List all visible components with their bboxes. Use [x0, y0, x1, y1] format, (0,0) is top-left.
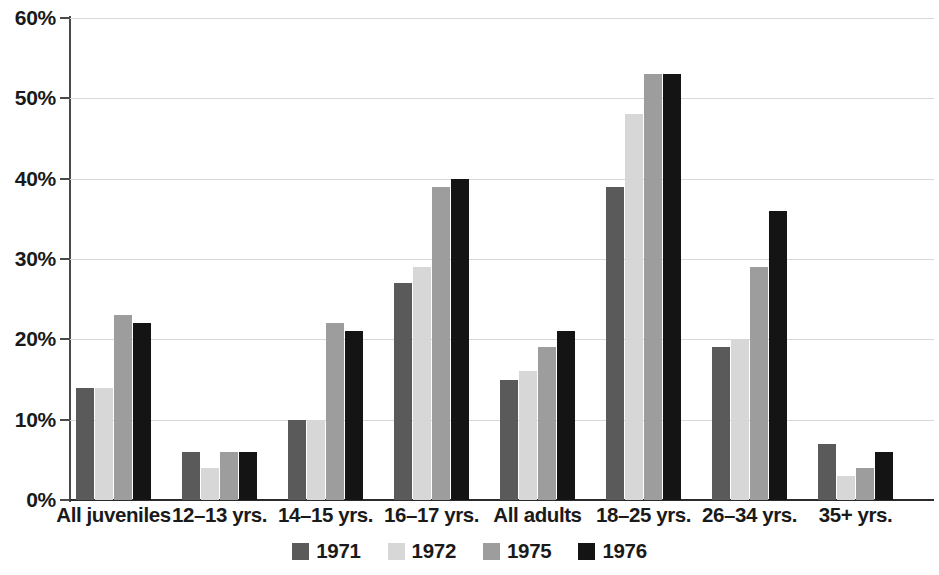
bar [326, 323, 344, 500]
x-axis-category-label: 35+ yrs. [766, 505, 939, 526]
legend-label: 1976 [602, 541, 646, 562]
bar [432, 187, 450, 500]
bar [538, 347, 556, 500]
gridline [70, 98, 934, 99]
legend-label: 1971 [316, 541, 360, 562]
bar [731, 339, 749, 500]
bar [557, 331, 575, 500]
legend-swatch-icon [388, 543, 405, 560]
bar [451, 179, 469, 500]
bar [288, 420, 306, 500]
bar [413, 267, 431, 500]
bar [307, 420, 325, 500]
y-axis-tick-label: 40% [0, 168, 56, 189]
bar [114, 315, 132, 500]
y-tick-mark [60, 499, 69, 501]
bar [837, 476, 855, 500]
bar [239, 452, 257, 500]
legend-swatch-icon [483, 543, 500, 560]
y-tick-mark [60, 258, 69, 260]
legend-item[interactable]: 1971 [292, 541, 360, 562]
legend-item[interactable]: 1976 [578, 541, 646, 562]
bar [345, 331, 363, 500]
y-axis-tick-label: 60% [0, 7, 56, 28]
y-tick-mark [60, 97, 69, 99]
bar [76, 388, 94, 500]
bar [500, 380, 518, 501]
legend-label: 1975 [507, 541, 551, 562]
legend-item[interactable]: 1972 [388, 541, 456, 562]
bar [712, 347, 730, 500]
gridline [70, 259, 934, 260]
bar [394, 283, 412, 500]
y-axis-tick-label: 50% [0, 87, 56, 108]
bar [644, 74, 662, 500]
bar [201, 468, 219, 500]
y-tick-mark [60, 419, 69, 421]
bar [182, 452, 200, 500]
bar [95, 388, 113, 500]
bar [220, 452, 238, 500]
plot-area [70, 18, 934, 500]
bar [875, 452, 893, 500]
bar [519, 371, 537, 500]
bar [769, 211, 787, 500]
gridline [70, 18, 934, 19]
bar [606, 187, 624, 500]
y-tick-mark [60, 17, 69, 19]
y-tick-mark [60, 178, 69, 180]
y-axis-tick-label: 10% [0, 409, 56, 430]
bar [663, 74, 681, 500]
legend-label: 1972 [412, 541, 456, 562]
y-tick-mark [60, 338, 69, 340]
chart-legend: 1971197219751976 [0, 541, 939, 562]
bar [133, 323, 151, 500]
bar [856, 468, 874, 500]
bar [625, 114, 643, 500]
bar-chart: 0%10%20%30%40%50%60% All juveniles12–13 … [0, 0, 939, 575]
bar [818, 444, 836, 500]
bar [750, 267, 768, 500]
gridline [70, 339, 934, 340]
gridline [70, 179, 934, 180]
y-axis-tick-label: 20% [0, 328, 56, 349]
y-axis-tick-label: 30% [0, 248, 56, 269]
legend-swatch-icon [578, 543, 595, 560]
legend-item[interactable]: 1975 [483, 541, 551, 562]
legend-swatch-icon [292, 543, 309, 560]
